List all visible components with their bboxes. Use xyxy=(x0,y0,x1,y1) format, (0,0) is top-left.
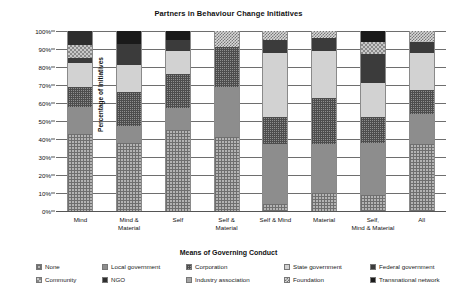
x-axis-tick-label: All xyxy=(385,216,457,224)
legend-swatch-icon xyxy=(284,264,290,270)
x-axis-title: Means of Governing Conduct xyxy=(0,249,457,256)
legend-label: Industry association xyxy=(195,275,250,284)
y-tick-mark xyxy=(51,103,55,104)
legend-item[interactable]: Corporation xyxy=(186,260,284,273)
y-axis-tick-label: 90% xyxy=(17,46,51,53)
bar-segment xyxy=(410,31,434,42)
legend-swatch-icon xyxy=(370,264,376,270)
bar-segment xyxy=(68,107,92,134)
y-axis-tick-label: 50% xyxy=(17,118,51,125)
y-axis-tick-label: 30% xyxy=(17,154,51,161)
bar-segment xyxy=(166,31,190,40)
legend-item[interactable]: Transnational network xyxy=(370,273,457,286)
bar-self-mind-material[interactable]: Self, Mind & Material xyxy=(360,31,386,211)
bar-segment xyxy=(117,92,141,126)
legend-label: Transnational network xyxy=(379,275,440,284)
legend-label: Community xyxy=(45,275,76,284)
bar-segment xyxy=(410,42,434,53)
y-tick-mark xyxy=(51,49,55,50)
y-tick-mark xyxy=(51,211,55,212)
bar-segment xyxy=(361,143,385,195)
legend-item[interactable]: Federal government xyxy=(370,260,457,273)
bar-segment xyxy=(117,143,141,211)
legend-item[interactable]: NGO xyxy=(102,273,186,286)
bar-segment xyxy=(68,31,92,45)
legend-item[interactable]: Community xyxy=(36,273,102,286)
bar-segment xyxy=(117,44,141,66)
bar-segment xyxy=(263,117,287,144)
bar-segment xyxy=(312,193,336,211)
y-tick-mark xyxy=(51,67,55,68)
bar-material[interactable]: Material xyxy=(311,31,337,211)
bar-segment xyxy=(166,51,190,74)
bar-segment xyxy=(68,134,92,211)
bar-all[interactable]: All xyxy=(409,31,435,211)
legend: NoneLocal governmentCorporationState gov… xyxy=(36,260,446,286)
bar-segment xyxy=(166,74,190,108)
bar-segment xyxy=(263,144,287,203)
y-axis-tick-label: 80% xyxy=(17,64,51,71)
legend-item[interactable]: Foundation xyxy=(284,273,370,286)
legend-swatch-icon xyxy=(186,277,192,283)
legend-label: Federal government xyxy=(379,262,434,271)
legend-label: Foundation xyxy=(293,275,324,284)
y-axis-tick-label: 100% xyxy=(17,28,51,35)
y-tick-mark xyxy=(51,85,55,86)
y-axis-tick-label: 10% xyxy=(17,190,51,197)
bar-segment xyxy=(117,65,141,92)
legend-swatch-icon xyxy=(186,264,192,270)
bar-segment xyxy=(312,31,336,38)
bar-segment xyxy=(263,53,287,118)
bar-segment xyxy=(312,51,336,98)
bar-segment xyxy=(410,90,434,113)
legend-swatch-icon xyxy=(102,277,108,283)
bar-self-mind[interactable]: Self & Mind xyxy=(262,31,288,211)
bar-segment xyxy=(215,137,239,211)
bar-segment xyxy=(166,40,190,51)
bar-segment xyxy=(312,98,336,145)
legend-item[interactable]: State government xyxy=(284,260,370,273)
y-axis-title: Percentage of Initiatives xyxy=(97,15,104,175)
bar-segment xyxy=(263,40,287,53)
bar-segment xyxy=(361,54,385,83)
bar-segment xyxy=(312,144,336,193)
legend-swatch-icon xyxy=(370,277,376,283)
bar-self[interactable]: Self xyxy=(165,31,191,211)
bar-segment xyxy=(361,195,385,211)
bar-segment xyxy=(215,31,239,47)
legend-label: Local government xyxy=(111,262,160,271)
bar-segment xyxy=(410,53,434,91)
bar-segment xyxy=(215,47,239,87)
y-tick-mark xyxy=(51,31,55,32)
legend-label: NGO xyxy=(111,275,125,284)
legend-swatch-icon xyxy=(36,264,42,270)
legend-swatch-icon xyxy=(36,277,42,283)
y-tick-mark xyxy=(51,193,55,194)
bar-segment xyxy=(263,204,287,211)
bar-segment xyxy=(68,63,92,86)
bar-self-material[interactable]: Self & Material xyxy=(214,31,240,211)
bar-segment xyxy=(263,31,287,40)
y-axis-tick-label: 0% xyxy=(17,208,51,215)
bar-segment xyxy=(361,117,385,142)
legend-item[interactable]: Local government xyxy=(102,260,186,273)
bar-segment xyxy=(68,58,92,63)
y-axis-tick-label: 70% xyxy=(17,82,51,89)
bar-segment xyxy=(410,114,434,145)
y-axis-tick-label: 60% xyxy=(17,100,51,107)
bar-segment xyxy=(117,31,141,44)
bar-mind[interactable]: Mind xyxy=(67,31,93,211)
legend-item[interactable]: Industry association xyxy=(186,273,284,286)
bar-segment xyxy=(361,31,385,42)
bar-segment xyxy=(215,87,239,137)
legend-swatch-icon xyxy=(284,277,290,283)
bar-mind-material[interactable]: Mind & Material xyxy=(116,31,142,211)
y-tick-mark xyxy=(51,157,55,158)
bar-segment xyxy=(68,87,92,107)
bar-segment xyxy=(166,130,190,211)
bar-segment xyxy=(410,144,434,211)
legend-item[interactable]: None xyxy=(36,260,102,273)
y-axis-tick-label: 40% xyxy=(17,136,51,143)
plot-area: 0%10%20%30%40%50%60%70%80%90%100% MindMi… xyxy=(56,31,446,211)
bar-segment xyxy=(117,126,141,142)
